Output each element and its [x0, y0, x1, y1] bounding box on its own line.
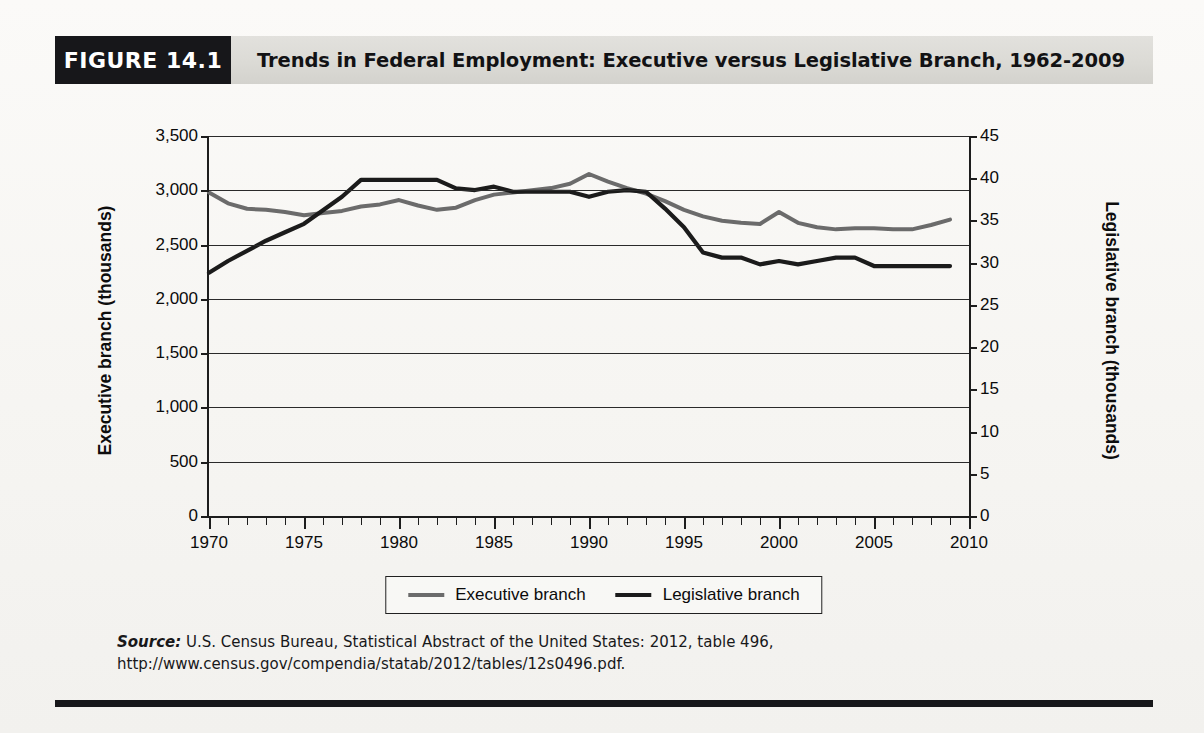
x-axis-minor-tick	[798, 516, 799, 525]
y-axis-left-title: Executive branch (thousands)	[95, 181, 116, 481]
y-axis-left-tick-label: 1,000	[155, 397, 209, 417]
x-axis-minor-tick	[513, 516, 514, 525]
x-axis-major-tick	[209, 516, 211, 529]
figure-title: Trends in Federal Employment: Executive …	[231, 36, 1153, 84]
figure-source: Source: U.S. Census Bureau, Statistical …	[117, 631, 1097, 675]
legend-swatch-icon	[408, 593, 444, 597]
x-axis-minor-tick	[855, 516, 856, 525]
x-axis-tick-label: 2010	[950, 533, 988, 553]
x-axis-minor-tick	[551, 516, 552, 525]
figure-page: FIGURE 14.1 Trends in Federal Employment…	[0, 0, 1204, 733]
x-axis-major-tick	[684, 516, 686, 529]
x-axis-major-tick	[969, 516, 971, 529]
y-axis-right-tick-label: 40	[969, 168, 999, 188]
x-axis-tick-label: 2005	[855, 533, 893, 553]
y-axis-left-tick-label: 2,500	[155, 235, 209, 255]
gridline	[209, 407, 969, 408]
x-axis-tick-label: 1970	[190, 533, 228, 553]
series-lines	[209, 136, 969, 516]
series-line-executive-branch	[209, 174, 950, 229]
x-axis-minor-tick	[931, 516, 932, 525]
x-axis-minor-tick	[665, 516, 666, 525]
x-axis-minor-tick	[323, 516, 324, 525]
legend-item: Legislative branch	[616, 585, 800, 605]
y-axis-right-tick-label: 10	[969, 422, 999, 442]
series-line-legislative-branch	[209, 180, 950, 273]
source-citation: U.S. Census Bureau, Statistical Abstract…	[117, 633, 774, 673]
x-axis-minor-tick	[247, 516, 248, 525]
y-axis-left-tick-label: 2,000	[155, 289, 209, 309]
figure-header: FIGURE 14.1 Trends in Federal Employment…	[55, 36, 1153, 84]
x-axis-tick-label: 1985	[475, 533, 513, 553]
x-axis-minor-tick	[627, 516, 628, 525]
source-label: Source:	[117, 633, 181, 651]
x-axis-major-tick	[779, 516, 781, 529]
y-axis-left-tick-label: 1,500	[155, 343, 209, 363]
gridline	[209, 136, 969, 137]
x-axis-tick-label: 1980	[380, 533, 418, 553]
chart-area: Executive branch (thousands) Legislative…	[55, 84, 1153, 584]
x-axis-minor-tick	[950, 516, 951, 525]
x-axis-major-tick	[494, 516, 496, 529]
y-axis-right-tick-label: 5	[969, 464, 989, 484]
x-axis-minor-tick	[266, 516, 267, 525]
chart-legend: Executive branchLegislative branch	[385, 576, 822, 614]
x-axis-minor-tick	[703, 516, 704, 525]
x-axis-major-tick	[304, 516, 306, 529]
plot-frame: 05001,0001,5002,0002,5003,0003,500051015…	[207, 136, 971, 518]
y-axis-right-tick-label: 35	[969, 210, 999, 230]
x-axis-tick-label: 2000	[760, 533, 798, 553]
gridline	[209, 462, 969, 463]
x-axis-minor-tick	[285, 516, 286, 525]
x-axis-major-tick	[399, 516, 401, 529]
bottom-rule	[55, 700, 1153, 707]
gridline	[209, 190, 969, 191]
x-axis-minor-tick	[741, 516, 742, 525]
y-axis-right-tick-label: 20	[969, 337, 999, 357]
x-axis-minor-tick	[456, 516, 457, 525]
legend-label: Legislative branch	[663, 585, 800, 605]
gridline	[209, 353, 969, 354]
x-axis-minor-tick	[532, 516, 533, 525]
x-axis-tick-label: 1995	[665, 533, 703, 553]
gridline	[209, 299, 969, 300]
x-axis-tick-label: 1975	[285, 533, 323, 553]
legend-item: Executive branch	[408, 585, 585, 605]
figure-number-badge: FIGURE 14.1	[55, 36, 231, 84]
y-axis-right-tick-label: 15	[969, 379, 999, 399]
y-axis-right-tick-label: 25	[969, 295, 999, 315]
x-axis-minor-tick	[817, 516, 818, 525]
x-axis-minor-tick	[361, 516, 362, 525]
x-axis-minor-tick	[722, 516, 723, 525]
figure-container: FIGURE 14.1 Trends in Federal Employment…	[55, 36, 1153, 688]
x-axis-minor-tick	[342, 516, 343, 525]
y-axis-left-tick-label: 0	[189, 506, 209, 526]
y-axis-right-tick-label: 0	[969, 506, 989, 526]
y-axis-right-title: Legislative branch (thousands)	[1101, 181, 1122, 481]
legend-label: Executive branch	[455, 585, 585, 605]
x-axis-minor-tick	[570, 516, 571, 525]
x-axis-tick-label: 1990	[570, 533, 608, 553]
legend-swatch-icon	[616, 593, 652, 597]
y-axis-right-tick-label: 45	[969, 126, 999, 146]
y-axis-right-tick-label: 30	[969, 253, 999, 273]
y-axis-left-tick-label: 500	[170, 452, 209, 472]
gridline	[209, 245, 969, 246]
x-axis-minor-tick	[760, 516, 761, 525]
x-axis-minor-tick	[608, 516, 609, 525]
x-axis-major-tick	[589, 516, 591, 529]
x-axis-minor-tick	[437, 516, 438, 525]
x-axis-minor-tick	[912, 516, 913, 525]
x-axis-minor-tick	[893, 516, 894, 525]
x-axis-minor-tick	[646, 516, 647, 525]
x-axis-minor-tick	[836, 516, 837, 525]
x-axis-minor-tick	[228, 516, 229, 525]
x-axis-minor-tick	[380, 516, 381, 525]
x-axis-minor-tick	[418, 516, 419, 525]
y-axis-left-tick-label: 3,000	[155, 180, 209, 200]
y-axis-left-tick-label: 3,500	[155, 126, 209, 146]
x-axis-minor-tick	[475, 516, 476, 525]
x-axis-major-tick	[874, 516, 876, 529]
